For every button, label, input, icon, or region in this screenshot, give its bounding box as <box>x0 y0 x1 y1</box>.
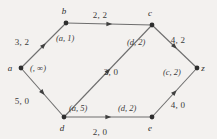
node-label-b: b <box>62 7 67 16</box>
node-pair-label-a: (, ∞) <box>30 64 46 73</box>
arrowhead-d-e <box>105 115 111 120</box>
node-pair-label-c: (d, 2) <box>127 38 145 47</box>
edge-capacity-label-a-b: 3, 2 <box>15 38 30 47</box>
edge-capacity-label-e-z: 4, 0 <box>171 101 186 110</box>
node-label-a: a <box>8 64 13 73</box>
node-label-e: e <box>148 124 152 133</box>
node-pair-label-z: (c, 2) <box>163 68 181 77</box>
flow-network-figure: abcdez3, 22, 24, 25, 02, 02, 04, 0(a, 1)… <box>0 0 217 139</box>
edge-capacity-label-d-e: 2, 0 <box>93 128 108 137</box>
edge-capacity-label-d-c: 2, 0 <box>104 68 119 77</box>
node-pair-label-e: (d, 2) <box>118 104 136 113</box>
node-pair-label-b: (a, 1) <box>56 34 74 43</box>
node-dot-c <box>150 23 155 28</box>
node-label-c: c <box>148 9 152 18</box>
node-label-z: z <box>201 64 205 73</box>
node-pair-label-d: (a, 5) <box>69 104 87 113</box>
node-dot-b <box>64 21 69 26</box>
edge-capacity-label-b-c: 2, 2 <box>93 11 108 20</box>
arrowhead-b-c <box>106 22 112 27</box>
node-dot-e <box>150 115 155 120</box>
edge-capacity-label-c-z: 4, 2 <box>171 36 186 45</box>
node-label-d: d <box>60 124 65 133</box>
edge-capacity-label-a-d: 5, 0 <box>15 97 30 106</box>
node-dot-z <box>195 66 200 71</box>
node-dot-a <box>19 66 24 71</box>
node-dot-d <box>62 115 67 120</box>
